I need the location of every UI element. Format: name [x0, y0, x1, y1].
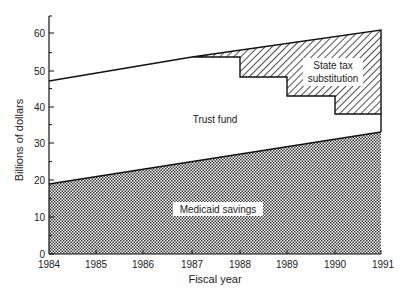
x-axis-label: Fiscal year — [188, 273, 242, 285]
y-tick-label: 30 — [34, 138, 46, 149]
y-tick-label: 20 — [34, 175, 46, 186]
state-tax-label-2: substitution — [308, 73, 359, 84]
y-tick-label: 60 — [34, 28, 46, 39]
y-tick-label: 10 — [34, 212, 46, 223]
y-tick-label: 40 — [34, 102, 46, 113]
x-tick-label: 1987 — [181, 259, 204, 270]
x-tick-label: 1988 — [229, 259, 252, 270]
y-axis-label: Billions of dollars — [13, 98, 25, 181]
trust-fund-top-line — [49, 57, 192, 81]
chart: State tax substitution Trust fund Medica… — [0, 0, 410, 300]
x-tick-label: 1986 — [132, 259, 155, 270]
medicaid-savings-area — [49, 132, 381, 254]
y-tick-label: 50 — [34, 66, 46, 77]
trust-fund-label: Trust fund — [193, 114, 238, 125]
x-tick-label: 1989 — [276, 259, 299, 270]
medicaid-label: Medicaid savings — [180, 204, 257, 215]
state-tax-label: State tax — [313, 60, 352, 71]
x-tick-label: 1985 — [85, 259, 108, 270]
x-tick-label: 1984 — [38, 259, 61, 270]
x-tick-label: 1990 — [324, 259, 347, 270]
x-tick-label: 1991 — [372, 259, 395, 270]
